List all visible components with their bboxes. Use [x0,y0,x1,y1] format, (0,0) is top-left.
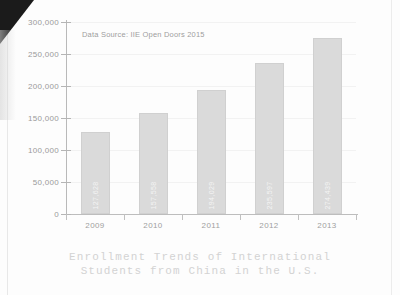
y-axis-tick-label: 300,000 [28,18,59,27]
x-axis-label: 2013 [317,221,336,230]
bar-value-label: 274,439 [324,181,331,209]
chart-title: Enrollment Trends of International Stude… [0,250,400,278]
x-axis-label: 2009 [85,221,104,230]
y-gridline [66,22,356,23]
x-axis-label: 2010 [143,221,162,230]
bar[interactable]: 157,558 [139,113,168,214]
plot-area: 050,000100,000150,000200,000250,000300,0… [66,22,356,214]
x-axis-tick [298,214,299,220]
x-axis-tick [124,214,125,220]
y-axis-tick-label: 250,000 [28,50,59,59]
chart-screenshot: Data Source: IIE Open Doors 2015 050,000… [0,0,400,295]
y-axis-tick-label: 0 [54,210,59,219]
x-axis-tick [182,214,183,220]
y-axis-tick [61,22,71,23]
x-axis-label: 2011 [202,221,221,230]
bar-value-label: 157,558 [150,181,157,209]
x-axis-tick [66,214,67,220]
chart-title-line-1: Enrollment Trends of International [0,250,400,264]
bar-value-label: 127,628 [92,181,99,209]
y-axis-tick [61,182,71,183]
bar[interactable]: 194,029 [197,90,226,214]
bar[interactable]: 274,439 [313,38,342,214]
bar[interactable]: 235,597 [255,63,284,214]
bar[interactable]: 127,628 [81,132,110,214]
x-axis-line [62,214,358,215]
y-axis-tick [61,150,71,151]
y-axis-tick [61,54,71,55]
y-axis-tick-label: 200,000 [28,82,59,91]
y-axis-tick [61,118,71,119]
page-corner-shadow [0,30,16,120]
bar-value-label: 235,597 [266,181,273,209]
bar-value-label: 194,029 [208,181,215,209]
y-axis-tick [61,86,71,87]
x-axis-label: 2012 [259,221,278,230]
y-axis-tick-label: 150,000 [28,114,59,123]
y-axis-tick-label: 50,000 [33,178,59,187]
chart-title-line-2: Students from China in the U.S. [0,264,400,278]
y-axis-tick-label: 100,000 [28,146,59,155]
x-axis-tick [240,214,241,220]
x-axis-tick [356,214,357,220]
